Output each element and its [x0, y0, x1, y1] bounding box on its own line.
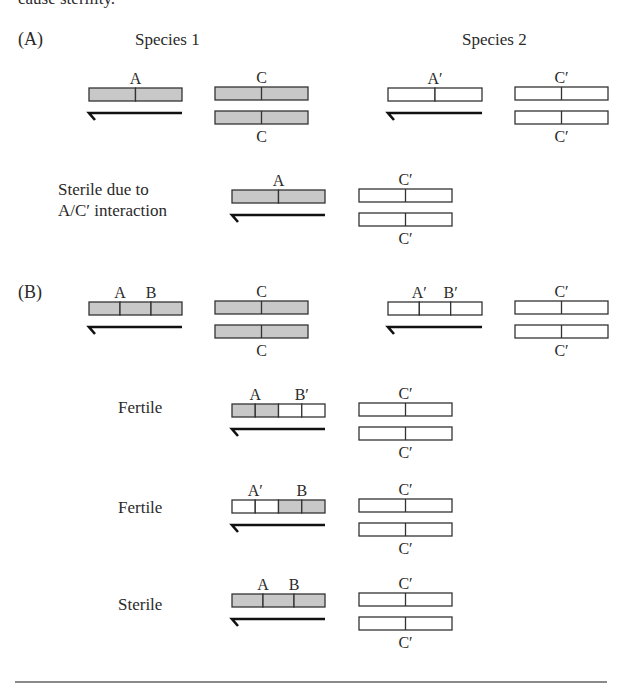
gene-label-bottom: C′: [554, 342, 568, 359]
gene-label-top: C′: [554, 69, 568, 86]
gene-label: A′: [412, 284, 427, 301]
species2-segment: [279, 404, 302, 417]
species1-segment: [302, 500, 325, 513]
chromatid: A: [89, 70, 182, 120]
gene-label-bottom: C′: [554, 128, 568, 145]
strand-arrow-icon: [89, 327, 182, 334]
species1-segment: [89, 88, 136, 101]
gene-label: B: [289, 576, 300, 593]
species1-parent: ABCC: [89, 283, 308, 359]
homolog-pair: C′C′: [359, 385, 452, 461]
gene-label: B: [146, 284, 157, 301]
panel-B: (B)ABCCA′B′C′C′FertileAB′C′C′FertileA′BC…: [18, 282, 608, 651]
species1-segment: [255, 404, 278, 417]
strand-arrow-icon: [232, 429, 325, 436]
species2-segment: [451, 302, 482, 315]
outcome-label: Fertile: [118, 498, 162, 517]
hybrid-row: SterileABC′C′: [118, 575, 452, 651]
chromatid: AB: [232, 576, 325, 626]
hybrid-row: FertileAB′C′C′: [118, 385, 452, 461]
species1-segment: [279, 500, 302, 513]
strand-arrow-icon: [388, 113, 482, 120]
species2-heading: Species 2: [462, 30, 527, 49]
homolog-pair: CC: [215, 283, 308, 359]
species1-segment: [279, 190, 326, 203]
species2-segment: [419, 302, 450, 315]
species1-heading: Species 1: [135, 30, 200, 49]
species1-parent: ACC: [89, 69, 308, 145]
panel-label: (B): [18, 282, 42, 303]
species1-segment: [136, 88, 183, 101]
homolog-pair: C′C′: [359, 481, 452, 557]
species1-segment: [294, 594, 325, 607]
species1-segment: [232, 594, 263, 607]
species2-parent: A′B′C′C′: [388, 283, 608, 359]
gene-label-top: C′: [398, 575, 412, 592]
outcome-label: Sterile: [118, 595, 162, 614]
chromatid: AB: [89, 284, 182, 334]
gene-label: A: [249, 386, 261, 403]
homolog-pair: C′C′: [359, 171, 452, 247]
gene-label-top: C: [256, 283, 267, 300]
species1-segment: [232, 190, 279, 203]
homolog-pair: C′C′: [359, 575, 452, 651]
gene-label: B′: [444, 284, 458, 301]
gene-label-top: C′: [398, 385, 412, 402]
gene-label-bottom: C′: [398, 230, 412, 247]
homolog-pair: C′C′: [515, 283, 608, 359]
gene-label-bottom: C: [256, 128, 267, 145]
species2-segment: [302, 404, 325, 417]
species2-segment: [388, 302, 419, 315]
chromatid: A: [232, 172, 325, 222]
hybrid-row: Sterile due toA/C′ interactionAC′C′: [58, 171, 452, 247]
strand-arrow-icon: [232, 619, 325, 626]
gene-label-top: C′: [398, 171, 412, 188]
species1-segment: [151, 302, 182, 315]
gene-label: B: [296, 482, 307, 499]
strand-arrow-icon: [232, 215, 325, 222]
chromatid: A′: [388, 70, 482, 120]
species2-segment: [232, 500, 255, 513]
outcome-label: Fertile: [118, 398, 162, 417]
species1-segment: [89, 302, 120, 315]
gene-label-top: C′: [398, 481, 412, 498]
strand-arrow-icon: [89, 113, 182, 120]
gene-label: A: [257, 576, 269, 593]
homolog-pair: C′C′: [515, 69, 608, 145]
gene-label: A′: [248, 482, 263, 499]
gene-label-bottom: C′: [398, 540, 412, 557]
hybrid-sterility-diagram: cause sterility. Species 1 Species 2 (A)…: [0, 0, 629, 689]
species2-segment: [388, 88, 435, 101]
panels: (A)ACCA′C′C′Sterile due toA/C′ interacti…: [18, 29, 608, 651]
species1-segment: [263, 594, 294, 607]
gene-label-top: C′: [554, 283, 568, 300]
gene-label-bottom: C′: [398, 444, 412, 461]
homolog-pair: CC: [215, 69, 308, 145]
gene-label: A: [273, 172, 285, 189]
species1-segment: [232, 404, 255, 417]
strand-arrow-icon: [232, 525, 325, 532]
panel-label: (A): [18, 29, 43, 50]
chromatid: AB′: [232, 386, 325, 436]
gene-label: B′: [295, 386, 309, 403]
partial-caption-text: cause sterility.: [18, 0, 115, 8]
species2-parent: A′C′C′: [388, 69, 608, 145]
species2-segment: [255, 500, 278, 513]
gene-label-bottom: C′: [398, 634, 412, 651]
gene-label-top: C: [256, 69, 267, 86]
panel-A: (A)ACCA′C′C′Sterile due toA/C′ interacti…: [18, 29, 608, 247]
outcome-label: A/C′ interaction: [58, 201, 167, 220]
gene-label-bottom: C: [256, 342, 267, 359]
outcome-label: Sterile due to: [58, 180, 149, 199]
gene-label: A′: [427, 70, 442, 87]
species1-segment: [120, 302, 151, 315]
gene-label: A: [130, 70, 142, 87]
strand-arrow-icon: [388, 327, 482, 334]
chromatid: A′B′: [388, 284, 482, 334]
gene-label: A: [114, 284, 126, 301]
species2-segment: [435, 88, 482, 101]
chromatid: A′B: [232, 482, 325, 532]
hybrid-row: FertileA′BC′C′: [118, 481, 452, 557]
